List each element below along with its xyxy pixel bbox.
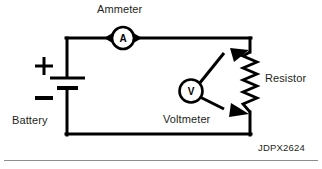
voltmeter-lead-upper [199, 53, 224, 84]
voltmeter-symbol: V [180, 48, 250, 117]
battery-label: Battery [12, 114, 48, 126]
resistor-symbol [243, 52, 257, 112]
voltmeter-label: Voltmeter [163, 113, 210, 125]
ammeter-label: Ammeter [97, 3, 142, 15]
footer-divider [4, 160, 318, 161]
resistor-zigzag [243, 52, 257, 112]
voltmeter-lead-lower [200, 97, 224, 109]
voltmeter-lead-lower-arrowhead [229, 103, 249, 117]
resistor-label: Resistor [265, 72, 306, 84]
ammeter-letter: A [119, 33, 126, 44]
circuit-diagram-figure: A V Ammeter Battery Voltmeter Resistor J… [0, 0, 322, 169]
figure-code-label: JDPX2624 [258, 142, 305, 154]
ammeter-symbol: A [104, 27, 142, 49]
voltmeter-letter: V [188, 86, 195, 97]
battery-symbol [50, 78, 85, 88]
